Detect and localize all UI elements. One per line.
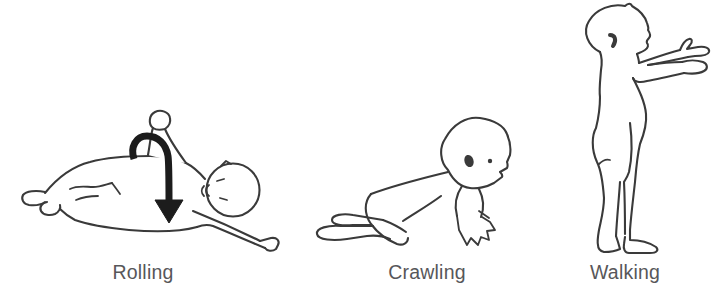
walking-label: Walking (560, 261, 690, 284)
walking-toddler-body (586, 4, 709, 253)
rolling-label: Rolling (78, 261, 208, 284)
milestones-illustration: Rolling Crawling Walking (0, 0, 719, 297)
crawling-baby-drawing (303, 108, 518, 258)
crawling-baby-eye (488, 159, 492, 163)
rolling-baby-body (22, 111, 278, 251)
crawling-label: Crawling (362, 261, 492, 284)
walking-toddler-ear (610, 35, 615, 46)
rolling-baby-drawing (8, 103, 298, 265)
crawling-baby-body (317, 118, 510, 245)
walking-toddler-drawing (576, 2, 718, 260)
